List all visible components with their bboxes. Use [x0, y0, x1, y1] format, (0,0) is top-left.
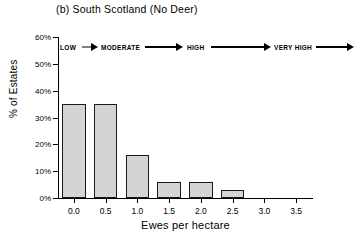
- bar-3: [157, 182, 181, 198]
- x-tick-label-5: 2.5: [227, 206, 239, 216]
- bar-1: [94, 104, 118, 198]
- arrow-right-icon-2: [145, 43, 183, 52]
- band-label-low: LOW: [60, 44, 76, 51]
- band-label-very-high: VERY HIGH: [274, 44, 312, 51]
- bar-4: [189, 182, 213, 198]
- x-axis-line: [58, 198, 313, 199]
- y-tick-label-50: 50%: [35, 59, 51, 68]
- x-tick-label-6: 3.0: [258, 206, 270, 216]
- x-tick-label-4: 2.0: [195, 206, 207, 216]
- y-tick-label-0: 0%: [39, 194, 51, 203]
- y-tick-label-10: 10%: [35, 167, 51, 176]
- y-tick-label-40: 40%: [35, 86, 51, 95]
- bar-5: [221, 190, 245, 198]
- band-label-moderate: MODERATE: [101, 44, 140, 51]
- y-tick-label-30: 30%: [35, 113, 51, 122]
- grazing-gradient-band: LOW MODERATE HIGH VERY HIGH: [60, 40, 326, 54]
- y-tick-label-20: 20%: [35, 140, 51, 149]
- arrow-right-icon-4: [316, 43, 354, 52]
- y-axis-title: % of Estates: [8, 59, 19, 118]
- bar-2: [126, 155, 150, 198]
- plot-area: 0% 10% 20% 30% 40% 50% 60% 0.0 0.5 1.0 1…: [58, 37, 312, 198]
- x-tick-label-1: 0.5: [100, 206, 112, 216]
- arrow-right-icon-3: [211, 43, 271, 52]
- bar-0: [62, 104, 86, 198]
- y-tick-label-60: 60%: [35, 33, 51, 42]
- arrow-right-icon-1: [82, 43, 98, 52]
- x-tick-label-2: 1.0: [131, 206, 143, 216]
- chart-title: (b) South Scotland (No Deer): [56, 3, 198, 15]
- x-axis-title: Ewes per hectare: [58, 219, 313, 231]
- x-tick-label-0: 0.0: [68, 206, 80, 216]
- band-label-high: HIGH: [187, 44, 204, 51]
- x-tick-label-7: 3.5: [290, 206, 302, 216]
- x-tick-label-3: 1.5: [163, 206, 175, 216]
